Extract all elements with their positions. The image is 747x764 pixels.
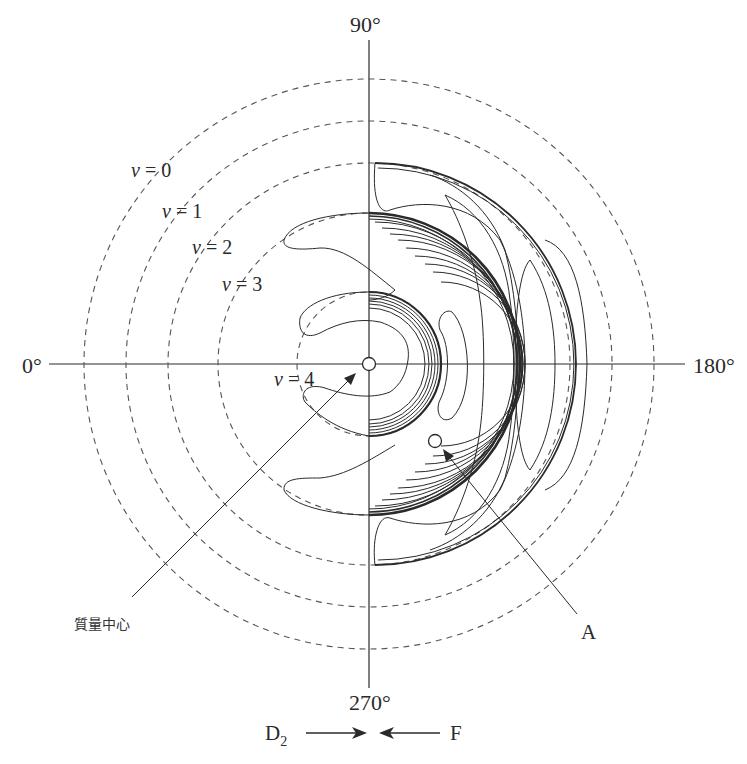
eq-sign: = bbox=[176, 200, 187, 222]
d2-subscript: 2 bbox=[280, 734, 287, 749]
polar-contour-diagram bbox=[0, 0, 747, 764]
eq-sign: = bbox=[145, 159, 156, 181]
center-of-mass-leader bbox=[132, 377, 352, 597]
level-label-v3: v = 3 bbox=[222, 274, 262, 294]
eq-sign: = bbox=[206, 236, 217, 258]
angle-label-90: 90° bbox=[350, 14, 381, 36]
level-label-v4: v = 4 bbox=[274, 369, 314, 389]
eq-sign: = bbox=[236, 273, 247, 295]
f-beam-label: F bbox=[450, 723, 462, 744]
center-of-mass-label: 質量中心 bbox=[74, 617, 130, 631]
level-value: 2 bbox=[222, 236, 232, 258]
level-label-v2: v = 2 bbox=[192, 237, 232, 257]
v-symbol: v bbox=[222, 273, 231, 295]
v-symbol: v bbox=[192, 236, 201, 258]
d2-beam-label: D2 bbox=[265, 723, 287, 744]
level-value: 1 bbox=[192, 200, 202, 222]
point-a-label: A bbox=[581, 622, 596, 643]
v-symbol: v bbox=[162, 200, 171, 222]
point-a-marker bbox=[429, 435, 442, 448]
point-a-leader bbox=[446, 453, 577, 614]
level-value: 4 bbox=[304, 368, 314, 390]
d2-species: D bbox=[265, 721, 280, 745]
eq-sign: = bbox=[288, 368, 299, 390]
level-value: 0 bbox=[161, 159, 171, 181]
angle-label-270: 270° bbox=[349, 692, 391, 714]
v-symbol: v bbox=[274, 368, 283, 390]
angle-label-0: 0° bbox=[22, 355, 42, 377]
center-of-mass-marker bbox=[363, 358, 376, 371]
level-value: 3 bbox=[252, 273, 262, 295]
level-label-v0: v = 0 bbox=[131, 160, 171, 180]
v-symbol: v bbox=[131, 159, 140, 181]
angle-label-180: 180° bbox=[693, 355, 735, 377]
level-label-v1: v = 1 bbox=[162, 201, 202, 221]
